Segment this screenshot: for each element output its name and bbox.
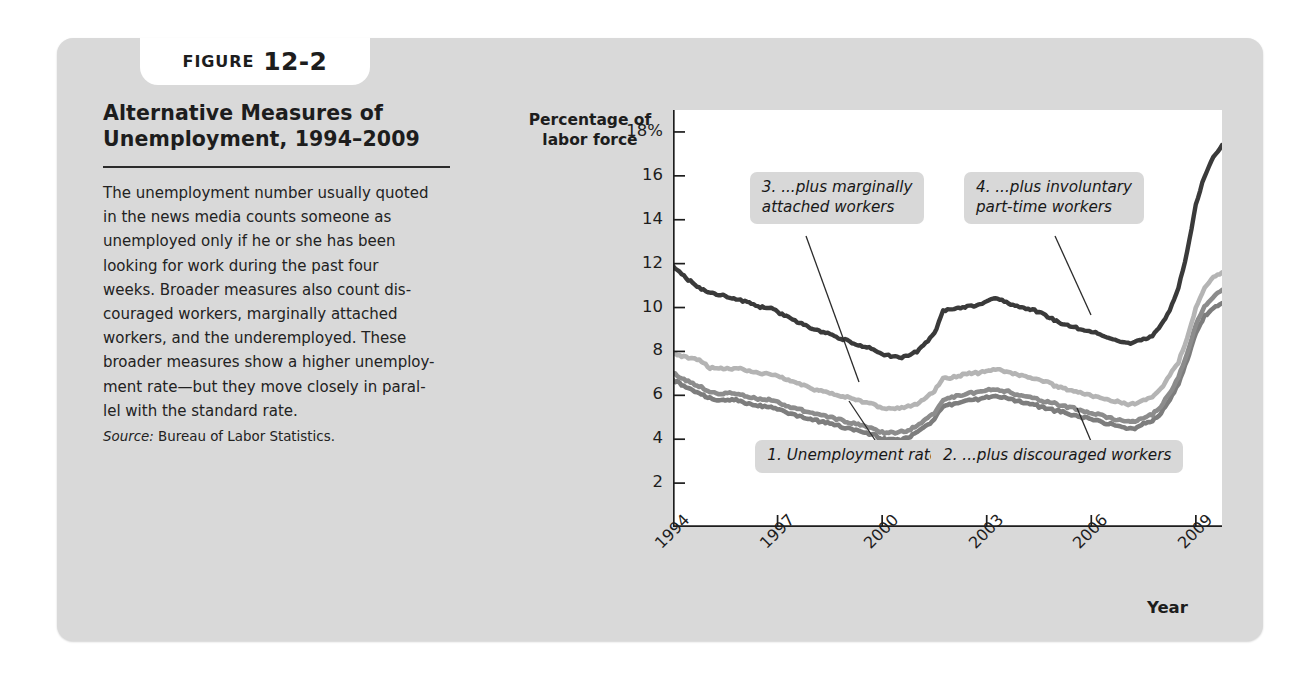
- figure-text-column: Alternative Measures of Unemployment, 19…: [103, 100, 479, 444]
- series-line-series3: [673, 272, 1222, 409]
- annotation-callout-2: 2. ...plus discouraged workers: [931, 440, 1183, 473]
- y-tick-label: 2: [607, 472, 663, 491]
- annotation-leader-line-3: [806, 236, 859, 382]
- x-tick-label: 1997: [756, 510, 798, 552]
- title-divider: [103, 166, 450, 168]
- x-tick-label: 2009: [1174, 510, 1216, 552]
- y-tick-label: 6: [607, 384, 663, 403]
- series-line-series4: [673, 145, 1222, 358]
- annotation-leader-line-4: [1055, 236, 1091, 315]
- y-tick-label: 12: [607, 253, 663, 272]
- figure-label: FIGURE: [183, 52, 255, 71]
- y-tick-label: 4: [607, 428, 663, 447]
- source-label: Source:: [103, 429, 154, 444]
- x-tick-label: 2003: [965, 510, 1007, 552]
- x-tick-label: 1994: [651, 510, 693, 552]
- annotation-callout-1: 1. Unemployment rate...: [755, 440, 965, 473]
- x-axis-title: Year: [1147, 598, 1188, 617]
- x-tick-label: 2006: [1069, 510, 1111, 552]
- series-line-series1: [673, 303, 1222, 440]
- series-line-series2: [673, 290, 1222, 434]
- plot-axes: [674, 110, 1222, 526]
- y-tick-label: 10: [607, 297, 663, 316]
- plot-area: [673, 110, 1222, 527]
- annotation-leader-line-2: [1077, 408, 1093, 446]
- source-line: Source: Bureau of Labor Statistics.: [103, 429, 479, 444]
- figure-panel: FIGURE 12-2 Alternative Measures of Unem…: [57, 38, 1263, 641]
- y-tick-label: 14: [607, 209, 663, 228]
- page-title: Alternative Measures of Unemployment, 19…: [103, 100, 479, 152]
- figure-body-text: The unemployment number usually quoted i…: [103, 181, 466, 423]
- annotation-callout-4: 4. ...plus involuntary part-time workers: [964, 172, 1144, 224]
- source-text: Bureau of Labor Statistics.: [158, 429, 335, 444]
- y-tick-label: 18%: [607, 121, 663, 140]
- y-axis-title: Percentage of labor force: [520, 110, 660, 150]
- figure-number-tab: FIGURE 12-2: [140, 38, 370, 85]
- annotation-leader-line-1: [849, 401, 879, 446]
- x-tick-label: 2000: [860, 510, 902, 552]
- plot-svg: [673, 110, 1222, 527]
- y-tick-label: 8: [607, 340, 663, 359]
- figure-number: 12-2: [263, 47, 327, 76]
- y-tick-label: 16: [607, 165, 663, 184]
- annotation-callout-3: 3. ...plus marginally attached workers: [750, 172, 925, 224]
